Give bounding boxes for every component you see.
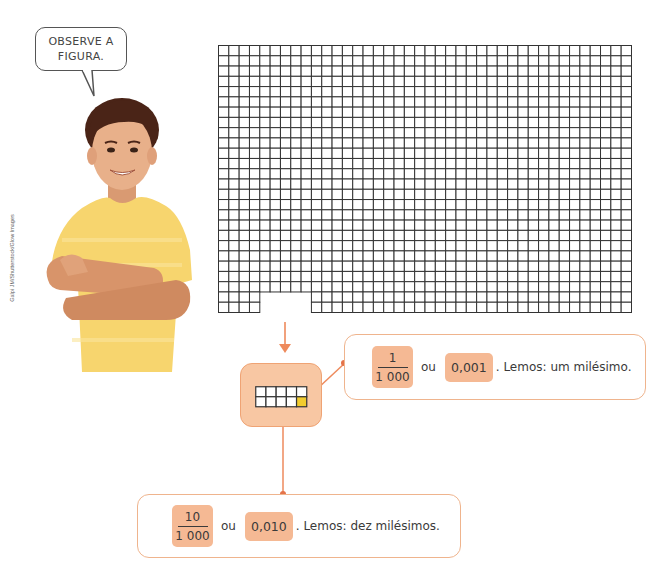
reading-text: . Lemos: dez milésimos. — [296, 519, 440, 533]
speech-bubble-line-1: OBSERVE A — [36, 34, 126, 49]
or-label: ou — [421, 360, 436, 374]
fraction-chip: 10 1 000 — [172, 505, 213, 547]
fraction-numerator: 10 — [185, 510, 200, 524]
speech-bubble: OBSERVE A FIGURA. — [35, 27, 127, 71]
fraction-bar — [378, 367, 408, 368]
callout-one-thousandth: 1 1 000 ou 0,001 . Lemos: um milésimo. — [344, 334, 646, 400]
fraction-numerator: 1 — [389, 351, 397, 365]
decimal-chip: 0,001 — [445, 353, 493, 382]
boy-photo — [42, 90, 194, 375]
thousand-square-grid — [218, 45, 632, 314]
speech-bubble-line-2: FIGURA. — [36, 49, 126, 64]
fraction-chip: 1 1 000 — [372, 346, 413, 388]
photo-credit: Galpi JM/Shutterstock/Glow Images — [9, 208, 15, 308]
fraction-bar — [178, 526, 208, 527]
ten-square-strip — [255, 386, 308, 412]
fraction-denominator: 1 000 — [375, 370, 409, 384]
reading-text: . Lemos: um milésimo. — [496, 360, 632, 374]
fraction-denominator: 1 000 — [175, 529, 209, 543]
callout-ten-thousandths: 10 1 000 ou 0,010 . Lemos: dez milésimos… — [137, 494, 461, 558]
decimal-chip: 0,010 — [245, 512, 293, 541]
or-label: ou — [221, 519, 236, 533]
down-arrow-icon — [278, 322, 292, 354]
